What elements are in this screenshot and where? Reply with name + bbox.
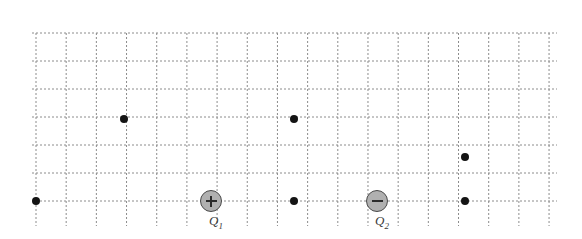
field-point-marker[interactable] bbox=[290, 197, 298, 205]
charge-q1-label: Q1 bbox=[209, 214, 223, 231]
charge-q2-circle[interactable] bbox=[366, 190, 388, 212]
diagram-canvas: Q1Q2 bbox=[0, 0, 582, 239]
field-point-marker[interactable] bbox=[461, 153, 469, 161]
plus-sign-vertical-bar bbox=[210, 196, 213, 207]
field-point-marker[interactable] bbox=[461, 197, 469, 205]
charge-q1-circle[interactable] bbox=[200, 190, 222, 212]
field-point-marker[interactable] bbox=[120, 115, 128, 123]
minus-sign bbox=[372, 200, 383, 203]
field-point-marker[interactable] bbox=[32, 197, 40, 205]
charge-q2-label: Q2 bbox=[375, 214, 389, 231]
field-point-marker[interactable] bbox=[290, 115, 298, 123]
